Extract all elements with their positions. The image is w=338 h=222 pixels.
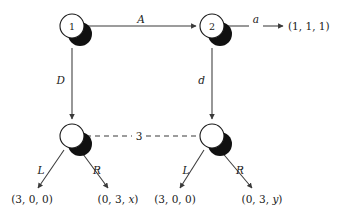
edge-label-D: D bbox=[56, 74, 66, 86]
payoff-0-3-x: (0, 3, x) bbox=[98, 193, 139, 205]
game-tree-diagram: 1 2 A a D d L R L R 3 (1, 1, 1) (3, 0, 0… bbox=[0, 0, 338, 222]
node-3-right-disc bbox=[200, 124, 224, 148]
payoff-0-3-y-prefix: (0, 3, bbox=[242, 193, 273, 205]
node-1-label: 1 bbox=[69, 21, 75, 32]
edge-label-R-left: R bbox=[92, 164, 101, 176]
edge-label-a: a bbox=[253, 13, 259, 25]
node-3-left-disc bbox=[60, 124, 84, 148]
edge-label-A: A bbox=[136, 13, 145, 25]
game-tree-canvas: 1 2 A a D d L R L R 3 (1, 1, 1) (3, 0, 0… bbox=[0, 0, 338, 222]
node-2[interactable]: 2 bbox=[200, 14, 232, 46]
payoff-3-0-0-left: (3, 0, 0) bbox=[11, 193, 53, 205]
payoff-0-3-x-prefix: (0, 3, bbox=[98, 193, 129, 205]
payoff-0-3-y: (0, 3, y) bbox=[242, 193, 283, 205]
payoff-1-1-1: (1, 1, 1) bbox=[288, 20, 330, 32]
edge-label-R-right: R bbox=[235, 164, 244, 176]
node-1[interactable]: 1 bbox=[60, 14, 92, 46]
edge-label-d: d bbox=[198, 74, 205, 86]
edge-label-L-left: L bbox=[37, 164, 45, 176]
node-2-label: 2 bbox=[209, 21, 215, 32]
node-3-left[interactable] bbox=[60, 124, 92, 156]
payoff-0-3-y-suffix: ) bbox=[278, 193, 282, 205]
payoff-0-3-x-suffix: ) bbox=[134, 193, 138, 205]
payoff-3-0-0-right: (3, 0, 0) bbox=[154, 193, 196, 205]
edge-label-L-right: L bbox=[182, 164, 190, 176]
information-set-label: 3 bbox=[136, 130, 143, 142]
node-3-right[interactable] bbox=[200, 124, 232, 156]
